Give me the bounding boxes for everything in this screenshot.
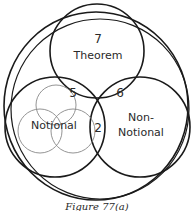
non-notional-label-line1: Non- (128, 111, 154, 124)
theorem-label: Theorem (73, 49, 123, 62)
non-notional-label-line2: Notional (118, 126, 164, 139)
theorem-count: 7 (94, 32, 102, 46)
theorem-non-notional-count: 6 (116, 86, 124, 100)
theorem-notional-count: 5 (69, 86, 77, 100)
notional-label: Notional (31, 119, 77, 132)
figure-caption: Figure 77(a) (64, 201, 128, 211)
venn-diagram: 7 Theorem 5 6 2 Notional Non- Notional F… (0, 0, 193, 211)
notional-non-notional-count: 2 (94, 121, 102, 135)
